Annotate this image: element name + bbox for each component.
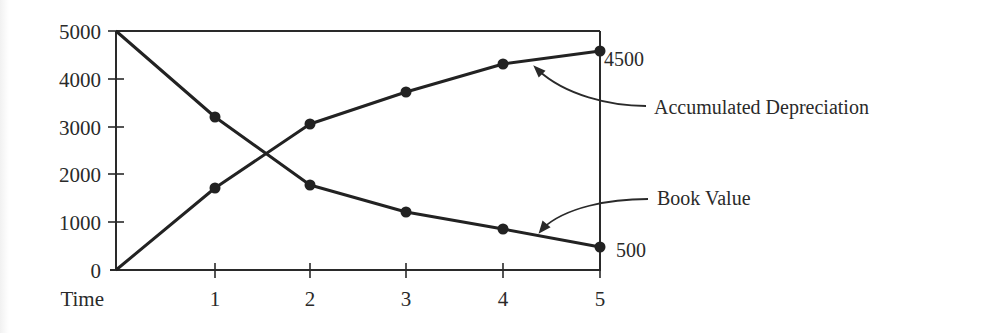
y-tick-label: 4000	[59, 68, 101, 92]
data-point	[498, 59, 509, 70]
y-tick-label: 5000	[59, 20, 101, 44]
accumulated-depreciation-annotation: Accumulated Depreciation	[654, 96, 869, 119]
x-tick-labels: Time 1 2 3 4 5	[60, 287, 605, 311]
y-tick-label: 2000	[59, 163, 101, 187]
x-axis-title: Time	[60, 287, 104, 311]
bv-annotation-arrow	[540, 199, 648, 232]
ad-end-value-label: 4500	[604, 48, 644, 70]
accumulated-depreciation-markers	[210, 46, 606, 194]
x-tick-label: 2	[305, 287, 316, 311]
chart: 5000 4000 3000 2000 1000 0 Time 1 2 3 4 …	[0, 0, 994, 333]
data-point	[210, 112, 221, 123]
book-value-annotation: Book Value	[657, 187, 751, 209]
data-point	[401, 87, 412, 98]
data-point	[401, 207, 412, 218]
y-tick-label: 0	[91, 259, 102, 283]
data-point	[498, 224, 509, 235]
y-tick-label: 1000	[59, 211, 101, 235]
data-point	[305, 119, 316, 130]
x-tick-label: 3	[401, 287, 412, 311]
plot-frame	[110, 31, 600, 271]
bv-end-value-label: 500	[616, 239, 646, 261]
x-tick-label: 4	[498, 287, 509, 311]
ad-annotation-arrow	[535, 67, 646, 106]
book-value-markers	[210, 112, 606, 253]
y-tick-label: 3000	[59, 116, 101, 140]
x-tick-label: 5	[595, 287, 606, 311]
data-point	[210, 183, 221, 194]
data-point	[595, 242, 606, 253]
y-tick-labels: 5000 4000 3000 2000 1000 0	[59, 20, 101, 283]
accumulated-depreciation-line	[116, 51, 600, 270]
x-tick-label: 1	[210, 287, 221, 311]
book-value-line	[116, 31, 600, 247]
data-point	[305, 180, 316, 191]
